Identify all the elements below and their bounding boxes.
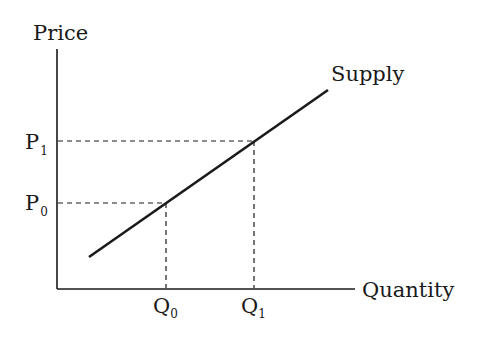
p0-label: P0 <box>25 191 48 219</box>
supply-diagram: Price Quantity Supply P1 P0 Q0 Q1 <box>0 0 479 337</box>
x-axis-label: Quantity <box>362 278 454 302</box>
p1-label: P1 <box>25 130 48 158</box>
y-axis-label: Price <box>33 21 88 45</box>
q1-label: Q1 <box>241 294 266 321</box>
supply-label: Supply <box>331 62 405 86</box>
supply-curve <box>89 90 328 257</box>
q0-label: Q0 <box>153 294 178 321</box>
